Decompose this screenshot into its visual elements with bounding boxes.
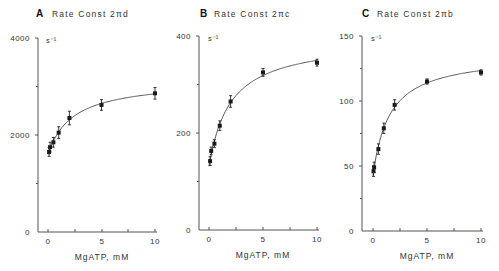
panel-b: B Rate Const 2πc s⁻¹ 400 200 0 0 5 10 Mg… — [176, 8, 322, 260]
panel-a-unit: s⁻¹ — [46, 36, 57, 45]
panel-a-xtick: 0 — [46, 237, 51, 246]
panel-b-xlabel: MgATP, mM — [236, 250, 291, 260]
panel-b-title: Rate Const 2πc — [214, 9, 291, 19]
panel-b-xtick: 10 — [312, 235, 322, 244]
panel-c-unit: s⁻¹ — [371, 34, 382, 43]
panel-c: C Rate Const 2πb s⁻¹ 150 100 50 0 0 5 10… — [339, 8, 486, 261]
data-point — [100, 103, 104, 107]
panel-c-ytick: 0 — [349, 227, 354, 236]
panel-a-ytick: 2000 — [10, 131, 30, 140]
data-point — [382, 126, 386, 130]
panel-c-xtick: 5 — [425, 236, 430, 245]
panel-a-ytick: 0 — [25, 228, 30, 237]
data-point — [315, 61, 319, 65]
panel-c-xtick: 10 — [476, 236, 486, 245]
panel-b-letter: B — [200, 8, 207, 19]
panel-a-letter: A — [36, 8, 43, 19]
panel-c-ytick: 100 — [339, 97, 354, 106]
data-point — [479, 70, 483, 74]
data-point — [261, 70, 265, 74]
panel-b-ytick: 0 — [186, 226, 191, 235]
data-point — [393, 103, 397, 107]
figure: A Rate Const 2πd s⁻¹ 4000 2000 0 0 5 10 … — [0, 0, 499, 271]
data-point — [51, 140, 55, 144]
data-point — [372, 165, 376, 169]
panel-a-plot-area — [47, 87, 157, 156]
panel-b-ytick: 400 — [176, 32, 191, 41]
data-point — [208, 159, 212, 163]
panel-a-ytick: 4000 — [10, 34, 30, 43]
panel-c-plot-area — [372, 70, 484, 177]
panel-c-title: Rate Const 2πb — [377, 9, 454, 19]
data-point — [376, 147, 380, 151]
data-point — [212, 142, 216, 146]
data-point — [218, 124, 222, 128]
fit-curve — [373, 71, 481, 176]
panel-c-ytick: 50 — [344, 162, 354, 171]
panel-c-ytick: 150 — [339, 32, 354, 41]
data-point — [153, 91, 157, 95]
panel-b-xtick: 5 — [261, 235, 266, 244]
data-point — [48, 145, 52, 149]
panel-c-letter: C — [362, 8, 369, 19]
data-point — [67, 116, 71, 120]
panel-c-xlabel: MgATP, mM — [400, 251, 455, 261]
data-point — [425, 80, 429, 84]
panel-b-unit: s⁻¹ — [208, 34, 219, 43]
panel-a-xtick: 10 — [150, 237, 160, 246]
data-point — [57, 131, 61, 135]
panel-c-xtick: 0 — [371, 236, 376, 245]
panel-a: A Rate Const 2πd s⁻¹ 4000 2000 0 0 5 10 … — [10, 8, 160, 262]
data-point — [209, 149, 213, 153]
panel-b-ytick: 200 — [176, 129, 191, 138]
panel-b-plot-area — [208, 59, 319, 166]
panel-a-xtick: 5 — [100, 237, 105, 246]
data-point — [229, 100, 233, 104]
panel-b-xtick: 0 — [207, 235, 212, 244]
panel-a-title: Rate Const 2πd — [52, 9, 129, 19]
panel-a-xlabel: MgATP, mM — [75, 252, 130, 262]
